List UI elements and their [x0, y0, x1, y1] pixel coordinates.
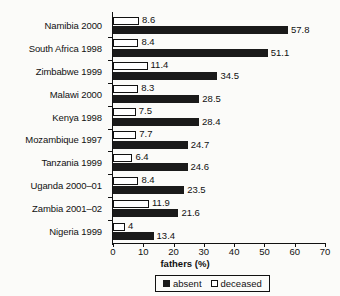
- bar-deceased: [113, 177, 138, 185]
- bar-value-absent: 51.1: [271, 48, 290, 57]
- bar-row: 11.921.6: [113, 197, 325, 220]
- bar-value-deceased: 8.4: [141, 175, 154, 184]
- bar-row: 11.434.5: [113, 60, 325, 83]
- y-axis-tick: [108, 129, 112, 130]
- category-label: Uganda 2000–01: [0, 174, 107, 197]
- x-axis-tick-labels: 010203040506070: [113, 246, 325, 258]
- bar-deceased: [113, 39, 138, 47]
- bar-value-deceased: 7.7: [139, 129, 152, 138]
- legend-label: deceased: [221, 278, 262, 289]
- bar-absent: [113, 209, 178, 217]
- bar-value-absent: 28.5: [202, 94, 221, 103]
- bar-value-deceased: 11.9: [152, 198, 170, 207]
- bar-absent: [113, 26, 288, 34]
- filled-square-icon: [163, 280, 170, 287]
- x-axis-tick-label: 60: [289, 246, 300, 257]
- x-axis-tick-label: 40: [229, 246, 240, 257]
- x-axis-tick-label: 30: [199, 246, 210, 257]
- category-label: Tanzania 1999: [0, 151, 107, 174]
- y-axis-tick: [108, 220, 112, 221]
- bar-absent: [113, 141, 188, 149]
- bar-absent: [113, 186, 184, 194]
- bar-value-deceased: 6.4: [135, 152, 148, 161]
- bar-deceased: [113, 131, 136, 139]
- bar-absent: [113, 72, 217, 80]
- x-axis-tick-label: 10: [138, 246, 149, 257]
- category-label: Kenya 1998: [0, 106, 107, 129]
- bar-value-absent: 28.4: [202, 117, 221, 126]
- bar-row: 7.528.4: [113, 106, 325, 129]
- bar-row: 8.451.1: [113, 37, 325, 60]
- bar-absent: [113, 232, 154, 240]
- x-axis-tick-label: 50: [259, 246, 270, 257]
- bar-deceased: [113, 154, 132, 162]
- horizontal-bar-chart: Namibia 2000South Africa 1998Zimbabwe 19…: [0, 0, 340, 296]
- bar-value-deceased: 8.3: [141, 83, 154, 92]
- bar-row: 6.424.6: [113, 151, 325, 174]
- x-axis-title: fathers (%): [0, 258, 340, 269]
- bar-deceased: [113, 200, 149, 208]
- category-axis-labels: Namibia 2000South Africa 1998Zimbabwe 19…: [0, 14, 107, 243]
- bar-value-absent: 34.5: [220, 71, 239, 80]
- bar-row: 413.4: [113, 220, 325, 243]
- y-axis-tick: [108, 106, 112, 107]
- bar-value-deceased: 7.5: [139, 106, 152, 115]
- bar-row: 8.328.5: [113, 83, 325, 106]
- legend-label: absent: [173, 278, 202, 289]
- bar-absent: [113, 95, 199, 103]
- y-axis-tick: [108, 151, 112, 152]
- bar-value-absent: 57.8: [291, 25, 310, 34]
- y-axis-tick: [108, 83, 112, 84]
- bar-value-absent: 21.6: [181, 208, 200, 217]
- bar-value-deceased: 4: [128, 221, 133, 230]
- category-label: Namibia 2000: [0, 14, 107, 37]
- bar-value-absent: 13.4: [157, 231, 176, 240]
- x-axis-tick-label: 70: [320, 246, 331, 257]
- bar-row: 7.724.7: [113, 129, 325, 152]
- category-label: Zimbabwe 1999: [0, 60, 107, 83]
- bar-absent: [113, 49, 268, 57]
- bar-value-deceased: 11.4: [151, 60, 169, 69]
- bar-value-deceased: 8.6: [142, 15, 155, 24]
- bar-value-deceased: 8.4: [141, 37, 154, 46]
- bar-value-absent: 24.7: [191, 140, 210, 149]
- y-axis-tick: [108, 60, 112, 61]
- bar-row: 8.657.8: [113, 14, 325, 37]
- category-label: Zambia 2001–02: [0, 197, 107, 220]
- bar-value-absent: 24.6: [191, 162, 210, 171]
- x-axis-tick-label: 20: [168, 246, 179, 257]
- plot-area: 8.657.88.451.111.434.58.328.57.528.47.72…: [113, 14, 325, 243]
- y-axis-tick: [108, 197, 112, 198]
- legend-item: deceased: [211, 278, 262, 289]
- category-label: Malawi 2000: [0, 83, 107, 106]
- y-axis-tick: [108, 37, 112, 38]
- y-axis-tick: [108, 174, 112, 175]
- bar-deceased: [113, 108, 136, 116]
- bar-absent: [113, 118, 199, 126]
- chart-legend: absentdeceased: [155, 275, 270, 292]
- category-label: Mozambique 1997: [0, 128, 107, 151]
- legend-item: absent: [163, 278, 202, 289]
- bar-deceased: [113, 223, 125, 231]
- bar-row: 8.423.5: [113, 174, 325, 197]
- x-axis-tick-label: 0: [110, 246, 115, 257]
- bar-value-absent: 23.5: [187, 185, 206, 194]
- bar-deceased: [113, 17, 139, 25]
- bar-deceased: [113, 85, 138, 93]
- outlined-square-icon: [211, 280, 218, 287]
- category-label: Nigeria 1999: [0, 220, 107, 243]
- bar-absent: [113, 163, 188, 171]
- category-label: South Africa 1998: [0, 37, 107, 60]
- bar-deceased: [113, 62, 148, 70]
